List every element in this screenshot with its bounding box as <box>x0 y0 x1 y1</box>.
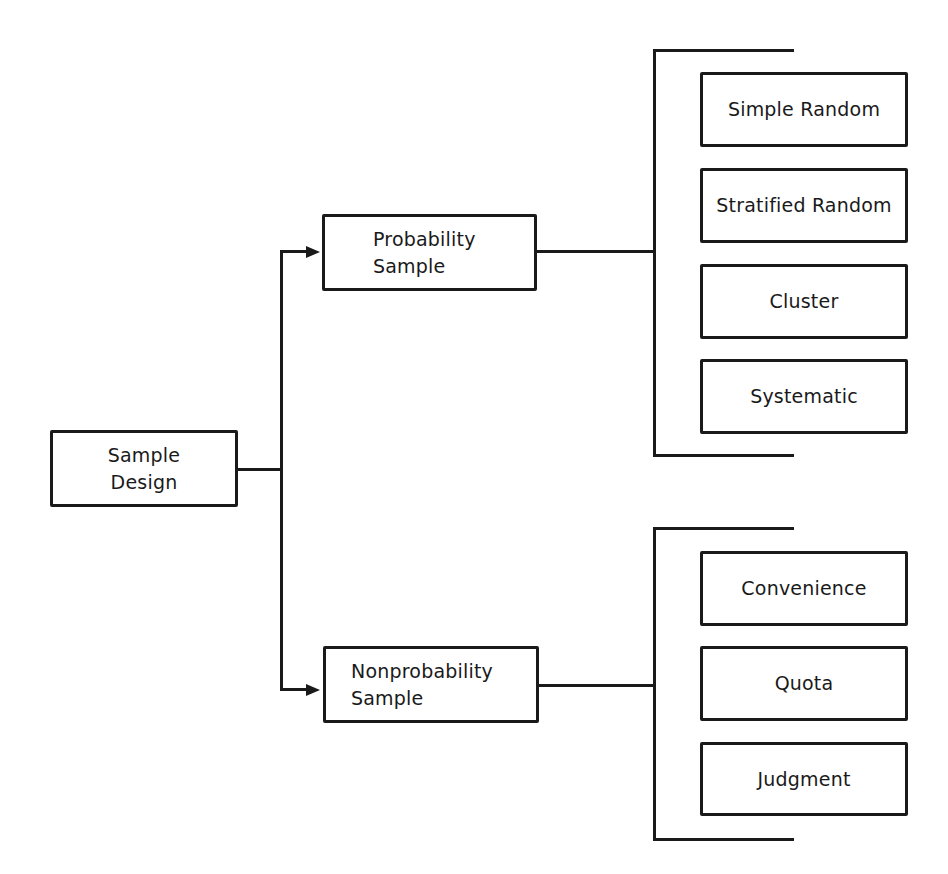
probability-bracket-vertical <box>653 49 656 457</box>
probability-sample-line1: Probability <box>373 226 476 253</box>
probability-bracket-top <box>653 49 794 52</box>
judgment-box: Judgment <box>700 742 908 816</box>
nonprobability-bracket-bottom <box>653 838 794 841</box>
simple-random-label: Simple Random <box>728 96 880 123</box>
nonprobability-arrow-icon <box>306 684 320 696</box>
nonprobability-sample-line1: Nonprobability <box>351 658 493 685</box>
sample-design-box: Sample Design <box>50 430 238 507</box>
nonprobability-sample-label: Nonprobability Sample <box>351 658 493 712</box>
root-connector <box>237 468 282 471</box>
stratified-random-box: Stratified Random <box>700 168 908 243</box>
nonprobability-sample-line2: Sample <box>351 685 493 712</box>
nonprobability-connector <box>538 684 656 687</box>
trunk-line <box>280 250 283 691</box>
probability-sample-label: Probability Sample <box>373 226 476 280</box>
sample-design-line2: Design <box>108 469 180 496</box>
probability-bracket-bottom <box>653 454 794 457</box>
convenience-label: Convenience <box>741 575 866 602</box>
sample-design-label: Sample Design <box>108 442 180 496</box>
simple-random-box: Simple Random <box>700 72 908 147</box>
convenience-box: Convenience <box>700 551 908 626</box>
cluster-box: Cluster <box>700 264 908 339</box>
systematic-label: Systematic <box>750 383 858 410</box>
probability-connector <box>536 250 656 253</box>
probability-sample-line2: Sample <box>373 253 476 280</box>
nonprobability-bracket-vertical <box>653 527 656 840</box>
stratified-random-label: Stratified Random <box>716 192 892 219</box>
judgment-label: Judgment <box>757 766 850 793</box>
quota-box: Quota <box>700 646 908 721</box>
probability-arrow-icon <box>306 246 320 258</box>
cluster-label: Cluster <box>770 288 839 315</box>
sample-design-line1: Sample <box>108 442 180 469</box>
probability-sample-box: Probability Sample <box>322 214 537 291</box>
nonprobability-bracket-top <box>653 527 794 530</box>
systematic-box: Systematic <box>700 359 908 434</box>
nonprobability-sample-box: Nonprobability Sample <box>323 646 539 723</box>
quota-label: Quota <box>775 670 834 697</box>
